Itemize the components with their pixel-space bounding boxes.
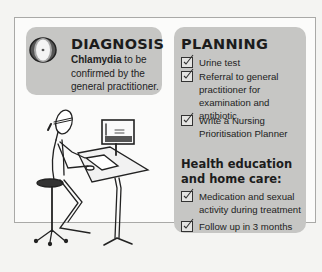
checked-box-icon [181, 57, 193, 68]
nurse-at-standing-desk-illustration [20, 100, 170, 260]
diagnosis-text: Chlamydia to be confirmed by the general… [71, 53, 163, 94]
eye-target-icon [29, 37, 57, 63]
planning-title: PLANNING [181, 36, 268, 52]
health-item: Follow up in 3 months [181, 220, 305, 233]
checked-box-icon [181, 71, 193, 82]
checked-box-icon [181, 115, 193, 126]
health-education-heading: Health education and home care: [181, 157, 305, 187]
health-item: Medication and sexual activity during tr… [181, 190, 305, 216]
diagnosis-title: DIAGNOSIS [71, 36, 164, 52]
background-text-bleed [25, 1, 305, 13]
checked-box-icon [181, 221, 193, 232]
checked-box-icon [181, 191, 193, 202]
planning-item: Urine test [181, 56, 305, 69]
planning-item: Write a Nursing Prioritisation Planner [181, 114, 305, 140]
diagnosis-condition: Chlamydia [71, 54, 122, 65]
